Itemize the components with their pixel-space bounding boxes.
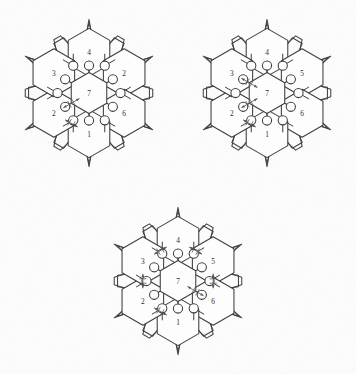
paper-grain-overlay bbox=[0, 0, 356, 374]
figure-root: 426123745612374561237 bbox=[0, 0, 356, 374]
hexagonal-cluster-figure: 426123745612374561237 bbox=[0, 0, 356, 374]
